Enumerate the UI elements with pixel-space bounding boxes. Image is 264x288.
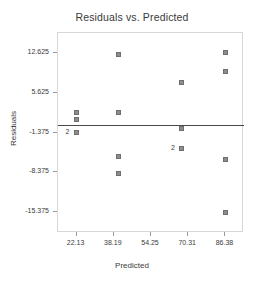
y-tick-mark [53, 171, 57, 172]
x-axis-title: Predicted [0, 261, 264, 270]
point-count-label: 2 [66, 128, 70, 135]
data-point [74, 130, 79, 135]
x-tick-mark [150, 232, 151, 236]
x-tick-label: 86.38 [199, 239, 249, 246]
y-tick-mark [53, 132, 57, 133]
y-tick-mark [53, 52, 57, 53]
data-point [179, 80, 184, 85]
data-point [116, 171, 121, 176]
data-point [116, 154, 121, 159]
y-tick-label: 12.625 [0, 48, 49, 55]
data-point [74, 110, 79, 115]
residuals-chart: Residuals vs. Predicted Residuals 22 12.… [0, 0, 264, 288]
y-tick-label: -15.375 [0, 207, 49, 214]
data-point [116, 52, 121, 57]
y-tick-label: -8.375 [0, 167, 49, 174]
data-point [223, 50, 228, 55]
data-point [179, 146, 184, 151]
plot-area: 22 [57, 32, 243, 232]
point-count-label: 2 [171, 144, 175, 151]
data-point [223, 210, 228, 215]
y-tick-mark [53, 92, 57, 93]
x-tick-mark [113, 232, 114, 236]
data-point [223, 157, 228, 162]
chart-title: Residuals vs. Predicted [0, 11, 264, 23]
x-tick-mark [76, 232, 77, 236]
data-point [179, 126, 184, 131]
x-tick-mark [224, 232, 225, 236]
zero-reference-line [58, 125, 244, 126]
y-tick-mark [53, 211, 57, 212]
y-tick-label: 5.625 [0, 88, 49, 95]
data-point [116, 110, 121, 115]
data-point [74, 117, 79, 122]
y-tick-label: -1.375 [0, 128, 49, 135]
data-point [223, 69, 228, 74]
x-tick-mark [187, 232, 188, 236]
